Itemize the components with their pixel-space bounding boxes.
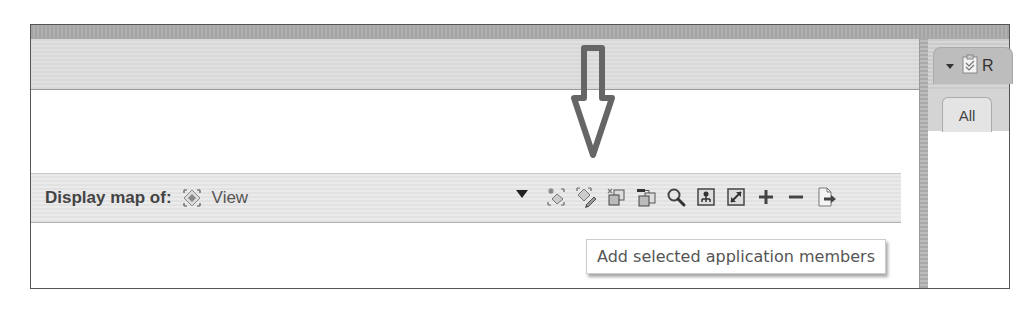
right-panel: R All (928, 39, 1009, 288)
zoom-in-plus-icon (755, 186, 777, 208)
search-button[interactable] (661, 182, 691, 212)
panel-collapse-chevron-icon[interactable] (946, 64, 954, 69)
display-map-label: Display map of: (45, 188, 172, 208)
hierarchy-view-button[interactable] (691, 182, 721, 212)
right-panel-title-bar: R (933, 47, 1013, 84)
tooltip: Add selected application members (586, 239, 886, 274)
zoom-out-button[interactable] (781, 182, 811, 212)
zoom-in-button[interactable] (751, 182, 781, 212)
tab-all[interactable]: All (942, 97, 992, 132)
select-all-members-icon (545, 186, 567, 208)
header-bar (31, 39, 921, 90)
zoom-out-minus-icon (785, 186, 807, 208)
search-icon (665, 186, 687, 208)
edit-members-icon (575, 186, 597, 208)
add-members-button[interactable] (601, 182, 631, 212)
display-map-toolbar: Display map of: View (31, 173, 901, 223)
fit-to-window-button[interactable] (721, 182, 751, 212)
view-diamond-icon (182, 188, 202, 208)
right-panel-title: R (982, 57, 994, 75)
add-selected-application-members-button[interactable] (631, 182, 661, 212)
add-members-icon (605, 186, 627, 208)
hierarchy-view-icon (695, 186, 717, 208)
annotation-down-arrow-icon (570, 45, 616, 164)
fit-to-window-icon (725, 186, 747, 208)
right-panel-header: R (928, 39, 1009, 89)
edit-members-button[interactable] (571, 182, 601, 212)
right-panel-tabs: All (928, 89, 1009, 131)
select-all-members-button[interactable] (541, 182, 571, 212)
map-tool-icons (541, 182, 841, 212)
window-top-strip (31, 25, 1009, 39)
selected-view-value[interactable]: View (212, 188, 249, 208)
clipboard-check-icon (962, 54, 978, 78)
export-icon (815, 186, 837, 208)
add-selected-application-members-icon (635, 186, 657, 208)
export-button[interactable] (811, 182, 841, 212)
view-dropdown-arrow-icon[interactable] (516, 190, 528, 198)
